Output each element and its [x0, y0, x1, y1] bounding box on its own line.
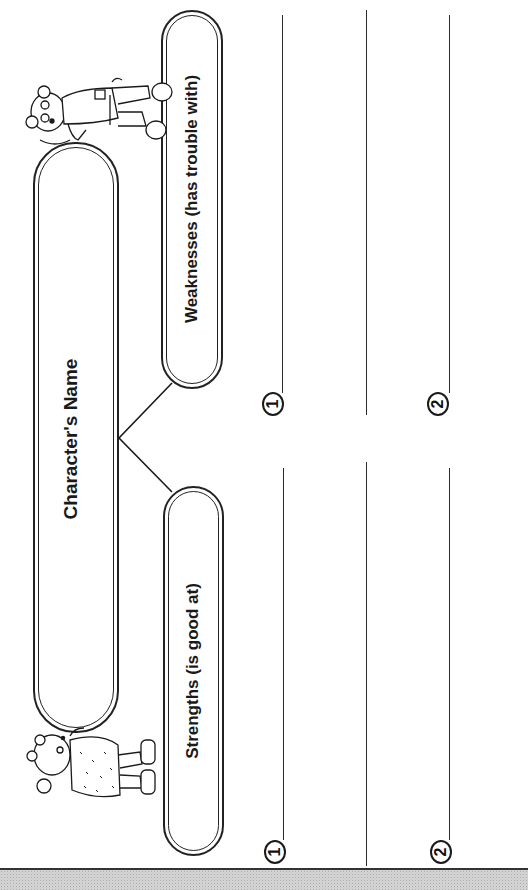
strength-item-2-number: 2 [430, 840, 452, 864]
weakness-item-2-number: 2 [427, 392, 449, 416]
character-name-label: Character's Name [59, 339, 83, 539]
strengths-label: Strengths (is good at) [181, 551, 205, 791]
strength-item-1-number: 1 [264, 840, 286, 864]
strength-2-writing-line[interactable] [449, 468, 450, 840]
weaknesses-label: Weaknesses (has trouble with) [180, 59, 204, 339]
page-edge-band [0, 868, 528, 890]
weakness-1-extra-writing-line[interactable] [366, 10, 367, 415]
strength-1-extra-writing-line[interactable] [366, 462, 367, 866]
character-traits-worksheet: Character's Name Weaknesses (has trouble… [0, 0, 528, 890]
bear-boy-illustration [26, 78, 172, 144]
weakness-item-1-number: 1 [262, 392, 284, 416]
weakness-2-writing-line[interactable] [449, 15, 450, 393]
strength-1-writing-line[interactable] [283, 468, 284, 840]
bear-girl-illustration [27, 728, 155, 797]
weakness-1-writing-line[interactable] [282, 15, 283, 393]
